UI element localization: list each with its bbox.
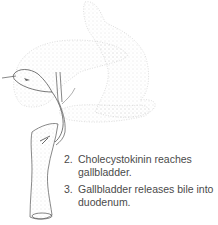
duodenum-shape [30,123,58,219]
step-item: 2. Cholecystokinin reaches gallbladder. [64,153,218,179]
process-steps-list: 2. Cholecystokinin reaches gallbladder. … [64,153,218,213]
step-item: 3. Gallbladder releases bile into duoden… [64,183,218,209]
step-number: 2. [64,153,73,166]
pancreas-shape [59,105,149,122]
step-text: Gallbladder releases bile into duodenum. [78,183,213,208]
step-text: Cholecystokinin reaches gallbladder. [78,153,192,178]
step-number: 3. [64,183,73,196]
